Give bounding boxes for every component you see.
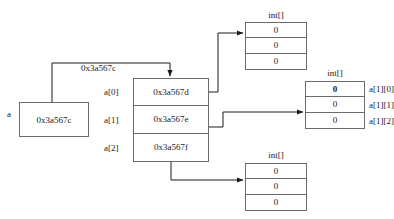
bottom-array-cell-2: 0: [245, 195, 307, 211]
variable-value: 0x3a567c: [20, 103, 88, 136]
top-array-cell-2: 0: [245, 54, 307, 70]
arrow-a1-to-right-array: [209, 112, 303, 127]
bottom-array-type-label: int[]: [245, 151, 307, 160]
right-array-cell-2: 0: [305, 113, 365, 129]
right-array-cell-0-value: 0: [333, 85, 338, 94]
right-array-cell-0: 0: [305, 81, 365, 97]
main-array-address-label: 0x3a567c: [81, 64, 116, 73]
bottom-array-cell-1: 0: [245, 179, 307, 195]
main-array-index-label-1: a[1]: [104, 116, 119, 125]
right-array-cell-1: 0: [305, 97, 365, 113]
right-array-element-label-1: a[1][1]: [369, 101, 394, 110]
variable-box: 0x3a567c: [19, 102, 89, 137]
arrow-a0-to-top-array: [209, 33, 243, 92]
arrow-a2-to-bottom-array: [171, 162, 243, 180]
right-array-element-label-2: a[1][2]: [369, 117, 394, 126]
top-array-type-label: int[]: [245, 11, 307, 20]
bottom-array-cell-0: 0: [245, 163, 307, 179]
pointer-array-diagram: · · · ·· ·· ·· a 0x3a567c: [0, 0, 394, 219]
main-array-cell-2: 0x3a567f: [133, 134, 209, 162]
main-array-cell-0: 0x3a567d: [133, 78, 209, 106]
main-array-index-label-2: a[2]: [104, 144, 119, 153]
top-array-cell-1: 0: [245, 38, 307, 54]
right-array-type-label: int[]: [305, 69, 365, 78]
main-array-cell-1: 0x3a567e: [133, 106, 209, 134]
top-array-cell-0: 0: [245, 22, 307, 38]
right-array-element-label-0: a[1][0]: [369, 85, 394, 94]
variable-name-label: a: [7, 110, 11, 119]
main-array-index-label-0: a[0]: [104, 88, 119, 97]
